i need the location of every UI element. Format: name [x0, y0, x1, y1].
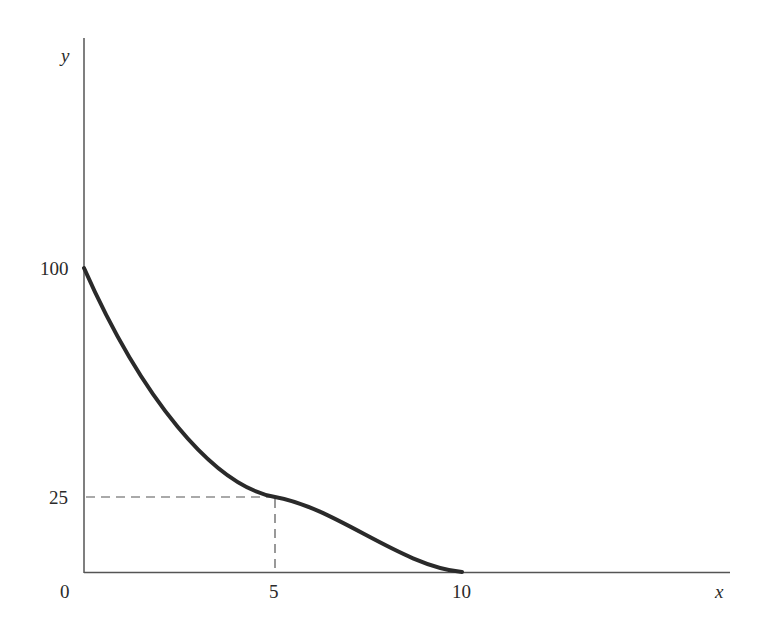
x-tick-10: 10 [452, 581, 471, 602]
x-tick-5: 5 [269, 581, 279, 602]
y-tick-100: 100 [40, 258, 69, 279]
chart: y x 100 25 0 5 10 [0, 0, 764, 640]
y-tick-25: 25 [49, 487, 68, 508]
data-curve [84, 268, 462, 572]
origin-label: 0 [60, 581, 70, 602]
y-axis-label: y [59, 45, 70, 66]
x-axis-label: x [714, 581, 724, 602]
